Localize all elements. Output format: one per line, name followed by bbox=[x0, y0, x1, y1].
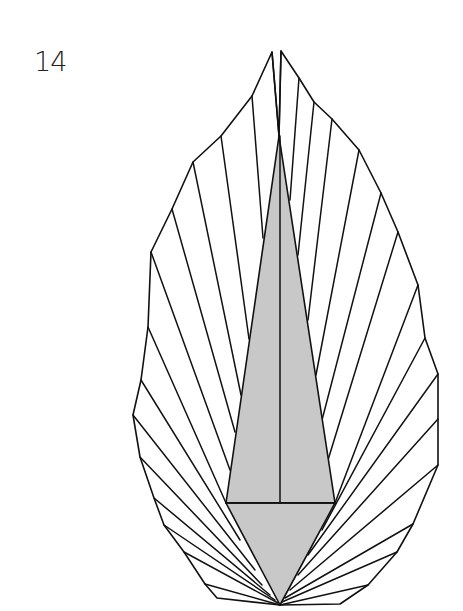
origami-fold-diagram bbox=[0, 0, 463, 611]
